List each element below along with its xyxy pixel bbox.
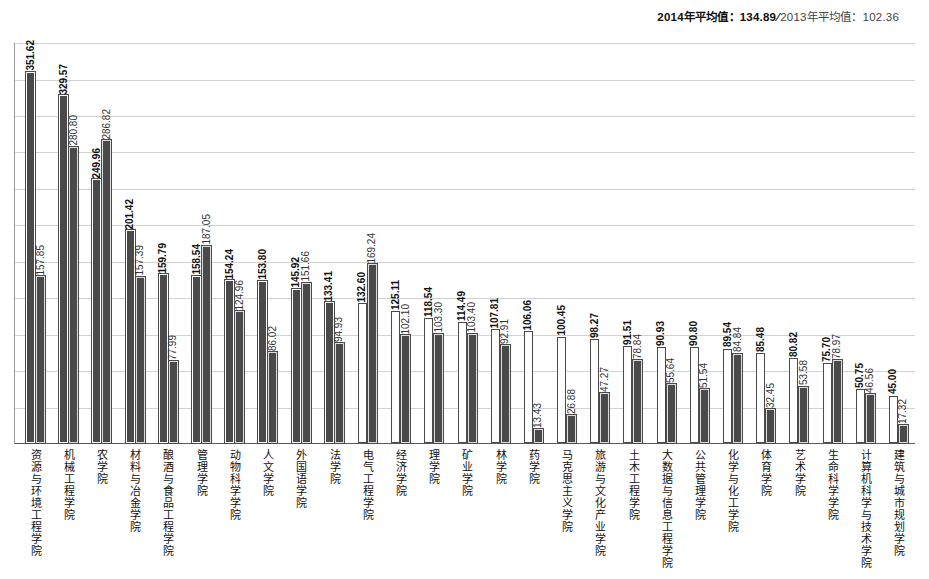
x-axis-label-text: 机械工程学院 [62,449,74,521]
bar-group: 125.11102.10 [384,43,417,443]
bar-y2013: 157.39 [136,277,145,443]
bar-group: 85.4832.45 [749,43,782,443]
x-axis-label-13: 矿业学院 [450,449,483,577]
bar-y2013: 13.43 [534,429,543,443]
bar-group: 107.8192.91 [484,43,517,443]
bar-y2014: 154.24 [225,280,234,443]
bar-y2013: 86.02 [268,352,277,443]
bar-y2014: 329.57 [59,95,68,443]
x-axis-label-text: 动物科学学院 [228,449,240,521]
bar-y2014: 114.49 [458,322,467,443]
bar-y2013: 78.84 [633,360,642,443]
x-axis-label-text: 资源与环境工程学院 [29,449,41,557]
x-axis-label-22: 体育学院 [749,449,782,577]
bar-group: 80.8253.58 [782,43,815,443]
x-axis-label-text: 材料与冶金学院 [128,449,140,533]
x-axis-label-1: 机械工程学院 [51,449,84,577]
bar-group: 329.57280.80 [52,43,85,443]
bar-group: 98.2747.27 [583,43,616,443]
bar-y2014: 75.70 [823,363,832,443]
x-axis-label-text: 酿酒与食品工程学院 [161,449,173,557]
x-axis-label-text: 化学与化工学院 [726,449,738,533]
bar-y2013: 92.91 [501,345,510,443]
x-axis-label-7: 人文学院 [251,449,284,577]
x-axis-label-text: 建筑与城市规划学院 [892,449,904,557]
bar-group: 159.7977.99 [152,43,185,443]
x-axis-category-labels: 资源与环境工程学院机械工程学院农学院材料与冶金学院酿酒与食品工程学院管理学院动物… [14,449,915,577]
x-axis-label-0: 资源与环境工程学院 [18,449,51,577]
bar-group: 201.42157.39 [119,43,152,443]
bar-value-label: 157.85 [36,245,46,276]
bar-group: 132.60169.24 [351,43,384,443]
bar-value-label: 94.93 [334,317,344,342]
bar-value-label: 153.80 [258,249,268,280]
bar-value-label: 98.27 [590,313,600,338]
x-axis-label-19: 大数据与信息工程学院 [649,449,682,577]
bar-y2013: 47.27 [600,393,609,443]
x-axis-label-16: 马克思主义学院 [550,449,583,577]
bar-y2013: 151.66 [302,283,311,443]
x-axis-label-11: 经济学院 [383,449,416,577]
bar-value-label: 78.84 [633,334,643,359]
bar-value-label: 187.05 [202,214,212,245]
bar-value-label: 32.45 [766,383,776,408]
bar-value-label: 55.64 [666,358,676,383]
x-axis-label-10: 电气工程学院 [350,449,383,577]
bar-group: 158.54187.05 [185,43,218,443]
bar-group: 106.0613.43 [517,43,550,443]
bar-y2013: 124.96 [235,311,244,443]
x-axis-label-8: 外国语学院 [284,449,317,577]
bar-y2014: 89.54 [723,349,732,444]
x-axis-label-25: 计算机科学与技术学院 [848,449,881,577]
bar-y2013: 280.80 [69,147,78,443]
bar-value-label: 102.10 [401,304,411,335]
bar-y2013: 53.58 [799,387,808,444]
bar-y2014: 85.48 [756,353,765,443]
bar-y2013: 17.32 [899,425,908,443]
bar-y2013: 77.99 [169,361,178,443]
bar-y2014: 153.80 [258,281,267,443]
x-axis-label-text: 经济学院 [394,449,406,497]
x-axis-label-text: 林学院 [494,449,506,485]
bar-value-label: 201.42 [125,199,135,230]
bar-y2014: 351.62 [26,72,35,443]
bar-value-label: 154.24 [225,249,235,280]
x-axis-label-text: 大数据与信息工程学院 [660,449,672,569]
bar-group: 90.9355.64 [650,43,683,443]
x-axis-label-text: 马克思主义学院 [560,449,572,533]
bar-y2013: 78.97 [833,360,842,443]
x-axis-label-3: 材料与冶金学院 [118,449,151,577]
bar-y2014: 50.75 [856,389,865,443]
x-axis-label-text: 旅游与文化产业学院 [593,449,605,557]
bar-value-label: 26.88 [567,389,577,414]
bar-value-label: 124.96 [235,280,245,311]
bar-value-label: 47.27 [600,367,610,392]
bar-y2014: 100.45 [557,337,566,443]
bar-value-label: 92.91 [500,319,510,344]
average-2014-label: 2014年平均值：134.89 [657,11,776,23]
bar-y2014: 125.11 [391,311,400,443]
bar-y2013: 187.05 [202,246,211,443]
bar-y2013: 169.24 [368,264,377,443]
x-axis-label-5: 管理学院 [184,449,217,577]
bar-y2014: 91.51 [623,346,632,443]
x-axis-label-text: 矿业学院 [460,449,472,497]
x-axis-label-text: 艺术学院 [793,449,805,497]
bar-group: 351.62157.85 [19,43,52,443]
bar-group: 100.4526.88 [550,43,583,443]
bar-group: 153.8086.02 [251,43,284,443]
x-axis-label-text: 公共管理学院 [693,449,705,521]
x-axis-label-text: 电气工程学院 [361,449,373,521]
x-axis-label-18: 土木工程学院 [616,449,649,577]
bar-y2013: 32.45 [766,409,775,443]
bar-value-label: 51.54 [699,363,709,388]
bar-group: 91.5178.84 [616,43,649,443]
bar-value-label: 132.60 [357,272,367,303]
x-axis-label-text: 生命科学学院 [826,449,838,521]
chart-average-header: 2014年平均值：134.89∕2013年平均值：102.36 [657,8,899,24]
bar-y2014: 90.80 [690,347,699,443]
bar-value-label: 17.32 [898,399,908,424]
bar-plot: 351.62157.85329.57280.80249.96286.82201.… [15,43,915,443]
bar-group: 45.0017.32 [882,43,915,443]
bar-y2013: 94.93 [335,343,344,443]
